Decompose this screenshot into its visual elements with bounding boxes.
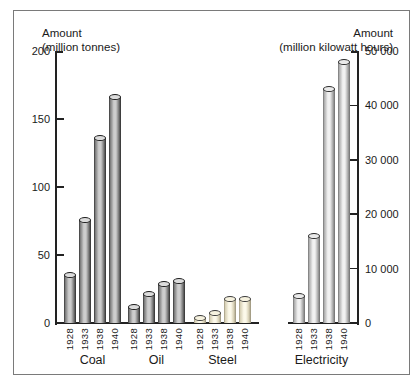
bar-coal-1940 <box>109 97 121 323</box>
year-label-coal-1938: 1938 <box>94 328 105 350</box>
bar-oil-1933 <box>143 294 155 323</box>
tick-right-40000 <box>350 105 357 107</box>
chart-frame: Amount (million tonnes) Amount (million … <box>13 10 410 375</box>
tick-label-left-150: 150 <box>10 113 50 125</box>
group-label-steel: Steel <box>208 353 237 367</box>
tick-label-left-50: 50 <box>10 249 50 261</box>
group-label-coal: Coal <box>80 353 106 367</box>
year-label-oil-1933: 1933 <box>143 328 154 350</box>
tick-label-right-40000: 40 000 <box>365 99 417 111</box>
left-axis-title: Amount (million tonnes) <box>42 26 120 54</box>
tick-left-100 <box>57 186 64 188</box>
bar-cap-electricity-1940 <box>338 59 350 65</box>
right-axis-top-tick <box>351 51 359 53</box>
bar-cap-oil-1938 <box>158 281 170 287</box>
tick-right-30000 <box>350 159 357 161</box>
tick-label-right-20000: 20 000 <box>365 208 417 220</box>
tick-right-10000 <box>350 268 357 270</box>
group-label-oil: Oil <box>149 353 164 367</box>
bar-steel-1940 <box>239 299 251 323</box>
year-label-electricity-1938: 1938 <box>323 328 334 350</box>
bar-cap-steel-1938 <box>224 296 236 302</box>
left-axis-title-line2: (million tonnes) <box>42 40 120 54</box>
year-label-oil-1938: 1938 <box>158 328 169 350</box>
year-label-coal-1928: 1928 <box>64 328 75 350</box>
left-axis-line <box>55 51 57 325</box>
bar-cap-coal-1933 <box>79 217 91 223</box>
bar-cap-steel-1940 <box>239 296 251 302</box>
year-label-electricity-1928: 1928 <box>293 328 304 350</box>
tick-label-right-10000: 10 000 <box>365 263 417 275</box>
group-label-electricity: Electricity <box>295 353 348 367</box>
bar-cap-oil-1940 <box>173 278 185 284</box>
tick-left-50 <box>57 254 64 256</box>
tick-right-20000 <box>350 213 357 215</box>
year-label-electricity-1933: 1933 <box>308 328 319 350</box>
bar-cap-steel-1928 <box>194 315 206 321</box>
left-axis-top-tick <box>55 51 63 53</box>
bar-oil-1938 <box>158 284 170 323</box>
bar-electricity-1928 <box>293 296 305 323</box>
year-label-oil-1928: 1928 <box>128 328 139 350</box>
tick-label-right-0: 0 <box>365 317 417 329</box>
tick-label-right-30000: 30 000 <box>365 154 417 166</box>
year-label-oil-1940: 1940 <box>173 328 184 350</box>
year-label-coal-1933: 1933 <box>79 328 90 350</box>
chart-canvas: Amount (million tonnes) Amount (million … <box>0 0 420 386</box>
bar-cap-coal-1938 <box>94 135 106 141</box>
year-label-coal-1940: 1940 <box>109 328 120 350</box>
bar-steel-1938 <box>224 299 236 323</box>
tick-label-right-50000: 50 000 <box>365 45 417 57</box>
bar-coal-1933 <box>79 220 91 323</box>
bar-coal-1928 <box>64 275 76 323</box>
bar-electricity-1940 <box>338 62 350 323</box>
bar-coal-1938 <box>94 138 106 323</box>
tick-left-150 <box>57 118 64 120</box>
bar-cap-electricity-1928 <box>293 293 305 299</box>
year-label-electricity-1940: 1940 <box>338 328 349 350</box>
bar-oil-1940 <box>173 281 185 323</box>
tick-label-left-100: 100 <box>10 181 50 193</box>
year-label-steel-1928: 1928 <box>194 328 205 350</box>
bar-cap-oil-1928 <box>128 304 140 310</box>
year-label-steel-1940: 1940 <box>239 328 250 350</box>
year-label-steel-1938: 1938 <box>224 328 235 350</box>
bar-electricity-1938 <box>323 89 335 323</box>
bar-electricity-1933 <box>308 236 320 323</box>
bar-cap-electricity-1933 <box>308 233 320 239</box>
year-label-steel-1933: 1933 <box>209 328 220 350</box>
right-axis-line <box>357 51 359 325</box>
left-axis-title-line1: Amount <box>42 26 120 40</box>
tick-label-left-0: 0 <box>10 317 50 329</box>
tick-label-left-200: 200 <box>10 45 50 57</box>
right-axis-title-line1: Amount <box>279 26 393 40</box>
